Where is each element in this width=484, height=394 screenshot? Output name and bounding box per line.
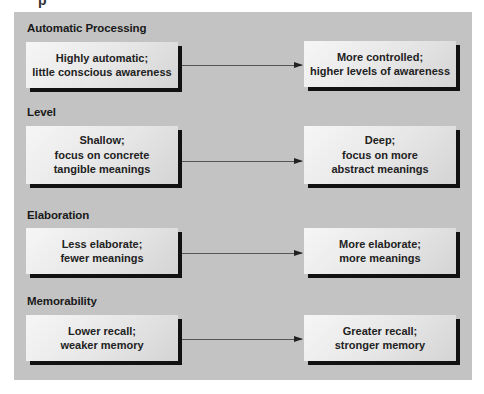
section-label-level: Level	[27, 106, 56, 118]
section-label-elaboration: Elaboration	[27, 209, 89, 221]
arrow-right-icon	[182, 339, 302, 340]
box-elaboration-left: Less elaborate; fewer meanings	[26, 228, 178, 274]
section-label-automatic-processing: Automatic Processing	[27, 22, 146, 34]
arrow-right-icon	[182, 65, 302, 66]
box-level-right: Deep; focus on more abstract meanings	[304, 126, 456, 184]
box-level-left: Shallow; focus on concrete tangible mean…	[26, 126, 178, 184]
box-memorability-left: Lower recall; weaker memory	[26, 315, 178, 361]
box-elaboration-right: More elaborate; more meanings	[304, 228, 456, 274]
section-label-memorability: Memorability	[27, 295, 97, 307]
arrow-right-icon	[182, 161, 302, 162]
box-automatic-right: More controlled; higher levels of awaren…	[304, 41, 456, 87]
cropped-heading-fragment: p	[38, 0, 47, 8]
box-automatic-left: Highly automatic; little conscious aware…	[26, 42, 178, 88]
arrow-right-icon	[182, 253, 302, 254]
box-memorability-right: Greater recall; stronger memory	[304, 315, 456, 361]
